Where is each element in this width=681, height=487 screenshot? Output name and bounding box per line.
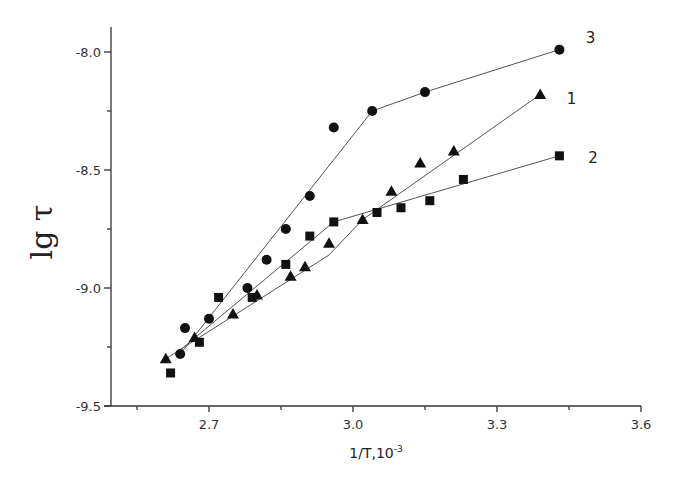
circle-marker xyxy=(175,349,185,359)
square-marker xyxy=(166,368,175,377)
circle-marker xyxy=(554,45,564,55)
square-marker xyxy=(214,293,223,302)
fit-line-series-3 xyxy=(180,50,559,355)
circle-marker xyxy=(329,123,339,133)
square-marker xyxy=(195,338,204,347)
circle-marker xyxy=(281,224,291,234)
circle-marker xyxy=(420,87,430,97)
circle-marker xyxy=(305,191,315,201)
square-marker xyxy=(329,217,338,226)
x-axis-title-superscript: -3 xyxy=(394,444,403,454)
x-tick-label: 3.6 xyxy=(631,417,652,432)
series-label-1: 1 xyxy=(567,90,577,108)
triangle-marker xyxy=(448,145,460,156)
square-marker xyxy=(281,260,290,269)
triangle-marker xyxy=(285,270,297,281)
x-tick-label: 3.3 xyxy=(487,417,508,432)
square-marker xyxy=(397,203,406,212)
circle-marker xyxy=(262,255,272,265)
fit-line-series-2 xyxy=(175,156,559,354)
x-tick-label: 2.7 xyxy=(199,417,220,432)
data-markers xyxy=(160,45,565,378)
fit-lines xyxy=(166,50,560,359)
square-marker xyxy=(555,151,564,160)
triangle-marker xyxy=(160,353,172,364)
y-tick-label: -9.0 xyxy=(76,281,101,296)
square-marker xyxy=(459,175,468,184)
x-axis-title: 1/T,10-3 xyxy=(349,444,402,461)
circle-marker xyxy=(180,323,190,333)
x-tick-label: 3.0 xyxy=(343,417,364,432)
y-tick-label: -9.5 xyxy=(76,399,101,414)
series-label-2: 2 xyxy=(588,149,598,167)
circle-marker xyxy=(367,106,377,116)
x-axis: 2.73.03.33.6 xyxy=(104,406,651,432)
triangle-marker xyxy=(534,88,546,99)
triangle-marker xyxy=(385,185,397,196)
y-tick-label: -8.5 xyxy=(76,163,101,178)
square-marker xyxy=(425,196,434,205)
square-marker xyxy=(373,208,382,217)
chart: -8.0-8.5-9.0-9.5 2.73.03.33.6 123 lg τ 1… xyxy=(0,0,681,487)
series-labels: 123 xyxy=(567,29,598,167)
circle-marker xyxy=(242,283,252,293)
series-label-3: 3 xyxy=(586,29,596,47)
y-tick-label: -8.0 xyxy=(76,45,101,60)
y-axis-title: lg τ xyxy=(24,205,59,260)
triangle-marker xyxy=(323,237,335,248)
square-marker xyxy=(248,293,257,302)
x-axis-title-base: 1/T,10 xyxy=(349,445,393,461)
square-marker xyxy=(305,232,314,241)
triangle-marker xyxy=(414,157,426,168)
fit-line-series-1 xyxy=(166,95,540,359)
triangle-marker xyxy=(299,261,311,272)
y-axis: -8.0-8.5-9.0-9.5 xyxy=(76,27,111,414)
circle-marker xyxy=(204,314,214,324)
